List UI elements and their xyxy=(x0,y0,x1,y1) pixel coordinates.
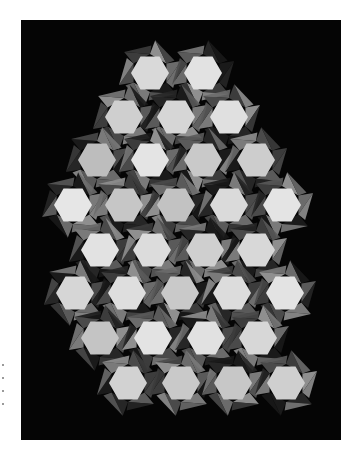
caption-mark xyxy=(2,403,4,405)
caption-mark xyxy=(2,377,4,379)
caption-mark xyxy=(2,390,4,392)
quilt-photo xyxy=(0,0,356,459)
caption-marks xyxy=(2,364,6,416)
caption-mark xyxy=(2,364,4,366)
